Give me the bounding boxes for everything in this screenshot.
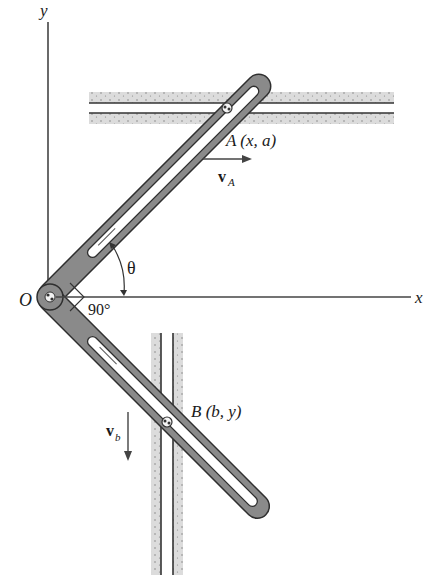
x-axis-label: x	[414, 288, 423, 307]
theta-label: θ	[127, 258, 136, 278]
velocity-b-arrow	[124, 412, 132, 461]
origin-label: O	[19, 290, 32, 310]
y-axis-label: y	[38, 1, 48, 20]
upper-arm	[34, 69, 276, 311]
velocity-a-symbol: v	[218, 168, 226, 185]
mechanism-diagram: y	[0, 0, 437, 587]
right-angle-label: 90°	[88, 301, 110, 318]
velocity-a-arrow	[203, 155, 252, 163]
pin-a	[222, 103, 232, 113]
velocity-a-subscript: A	[227, 176, 235, 188]
vertical-guide	[151, 333, 183, 575]
pin-b	[162, 417, 172, 427]
point-b-label: B (b, y)	[191, 402, 242, 421]
velocity-b-symbol: v	[106, 422, 114, 439]
point-a-label: A (x, a)	[225, 131, 277, 150]
velocity-b-subscript: b	[115, 431, 121, 443]
